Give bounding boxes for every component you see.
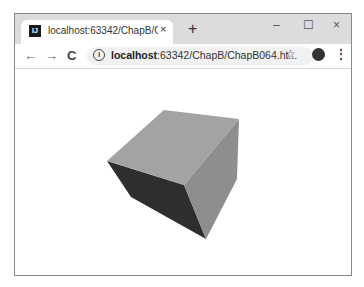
- browser-window: IJ localhost:63342/ChapB/ChapB × + – ☐ ×…: [14, 13, 352, 276]
- page-viewport: [15, 69, 351, 276]
- cube-canvas: [1, 1, 364, 287]
